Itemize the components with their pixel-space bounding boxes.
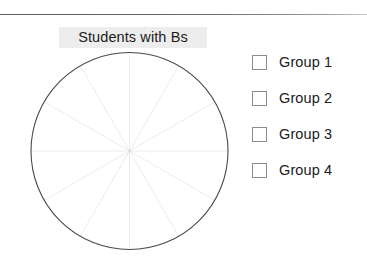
legend-item-label: Group 3 (279, 126, 332, 142)
pie-center-dot (129, 150, 131, 152)
legend-item-group-2[interactable]: Group 2 (252, 88, 364, 108)
pie-chart[interactable] (28, 50, 231, 252)
legend: Group 1 Group 2 Group 3 Group 4 (252, 52, 364, 196)
header-divider (0, 14, 367, 15)
chart-title: Students with Bs (59, 27, 207, 48)
legend-item-label: Group 4 (279, 162, 332, 178)
legend-item-label: Group 2 (279, 90, 332, 106)
checkbox-icon[interactable] (252, 91, 267, 106)
legend-item-group-4[interactable]: Group 4 (252, 160, 364, 180)
legend-item-group-3[interactable]: Group 3 (252, 124, 364, 144)
legend-item-label: Group 1 (279, 54, 332, 70)
checkbox-icon[interactable] (252, 55, 267, 70)
worksheet-page: Students with Bs Group 1 (0, 0, 367, 259)
checkbox-icon[interactable] (252, 127, 267, 142)
checkbox-icon[interactable] (252, 163, 267, 178)
legend-item-group-1[interactable]: Group 1 (252, 52, 364, 72)
